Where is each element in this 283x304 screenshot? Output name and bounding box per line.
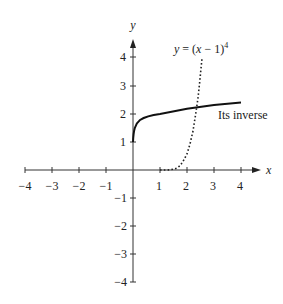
quartic-curve-label: y = (x − 1)4 <box>173 41 228 56</box>
x-tick-label: −4 <box>19 179 32 193</box>
y-tick-label: −1 <box>114 191 127 205</box>
y-tick-label: 3 <box>120 79 126 93</box>
x-axis-arrow-icon <box>252 167 261 173</box>
x-tick-label: −3 <box>46 179 59 193</box>
x-tick-label: 1 <box>156 179 162 193</box>
y-tick-label: −2 <box>114 219 127 233</box>
quartic-curve <box>160 58 202 170</box>
y-tick-label: 1 <box>120 135 126 149</box>
x-tick-labels: −4 −3 −2 −1 1 2 3 4 <box>19 179 243 193</box>
y-axis-arrow-icon <box>130 39 136 48</box>
x-tick-label: 3 <box>210 179 216 193</box>
x-axis-label: x <box>265 163 272 177</box>
x-tick-label: −1 <box>100 179 113 193</box>
x-tick-label: 2 <box>183 179 189 193</box>
y-tick-label: −3 <box>114 247 127 261</box>
y-tick-label: 4 <box>120 50 126 64</box>
y-tick-label: −4 <box>114 275 127 289</box>
x-tick-label: −2 <box>73 179 86 193</box>
inverse-curve-label: Its inverse <box>218 108 268 122</box>
chart-canvas: −4 −3 −2 −1 1 2 3 4 4 3 2 1 −1 −2 −3 −4 … <box>0 0 283 304</box>
x-tick-label: 4 <box>237 179 243 193</box>
y-tick-label: 2 <box>120 107 126 121</box>
y-axis-label: y <box>129 18 136 32</box>
